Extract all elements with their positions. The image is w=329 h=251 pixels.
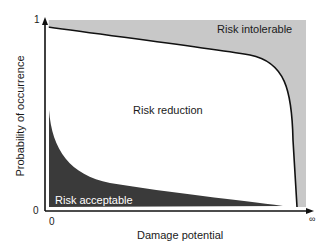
risk-diagram <box>0 0 329 251</box>
y-axis-label: Probability of occurrence <box>14 51 26 181</box>
y-tick-0: 0 <box>33 205 39 216</box>
x-axis-label: Damage potential <box>137 229 223 241</box>
y-tick-1: 1 <box>34 14 40 25</box>
label-risk-reduction: Risk reduction <box>133 104 203 116</box>
x-tick-infinity: ∞ <box>309 214 315 224</box>
x-tick-0: 0 <box>49 216 55 227</box>
label-risk-intolerable: Risk intolerable <box>217 23 292 35</box>
y-axis-arrow-icon <box>42 17 48 25</box>
label-risk-acceptable: Risk acceptable <box>55 194 133 206</box>
